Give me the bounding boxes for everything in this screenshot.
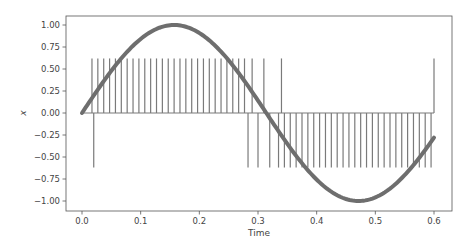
y-tick-label: 0.75 bbox=[41, 42, 60, 52]
x-tick-label: 0.5 bbox=[369, 216, 383, 226]
y-tick-label: 0.50 bbox=[41, 64, 60, 74]
y-tick-label: −0.50 bbox=[34, 152, 60, 162]
y-tick-label: −0.25 bbox=[34, 130, 60, 140]
y-tick-label: 0.25 bbox=[41, 86, 60, 96]
x-tick-label: 0.4 bbox=[310, 216, 324, 226]
chart: 0.00.10.20.30.40.50.6 1.000.750.500.250.… bbox=[0, 0, 471, 248]
y-tick-label: −1.00 bbox=[34, 196, 60, 206]
y-axis-label: x bbox=[18, 110, 28, 117]
x-tick-label: 0.0 bbox=[75, 216, 89, 226]
y-tick-label: 1.00 bbox=[41, 20, 60, 30]
y-tick-label: −0.75 bbox=[34, 174, 60, 184]
x-tick-label: 0.1 bbox=[134, 216, 148, 226]
y-tick-label: 0.00 bbox=[41, 108, 60, 118]
x-axis-ticks: 0.00.10.20.30.40.50.6 bbox=[75, 211, 441, 226]
y-axis-ticks: 1.000.750.500.250.00−0.25−0.50−0.75−1.00 bbox=[34, 20, 66, 206]
x-tick-label: 0.3 bbox=[251, 216, 265, 226]
x-tick-label: 0.2 bbox=[193, 216, 207, 226]
x-axis-label: Time bbox=[247, 228, 270, 238]
x-tick-label: 0.6 bbox=[427, 216, 441, 226]
